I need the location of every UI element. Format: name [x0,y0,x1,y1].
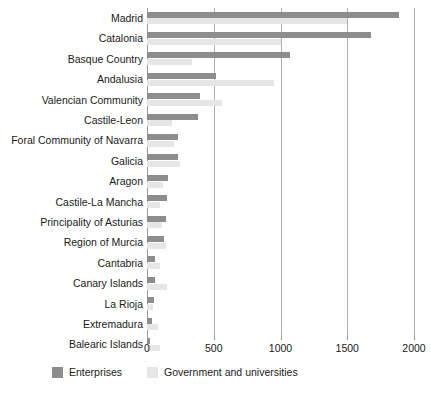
bar-enterprises [147,195,167,201]
horizontal-bar-chart: MadridCataloniaBasque CountryAndalusiaVa… [0,0,431,396]
bar-row [147,171,414,191]
category-label: Madrid [0,8,143,28]
bar-row [147,192,414,212]
bar-government-universities [147,222,162,228]
bar-government-universities [147,304,153,310]
category-label: La Rioja [0,294,143,314]
bar-row [147,90,414,110]
bar-government-universities [147,161,180,167]
x-tick-label: 2000 [402,341,425,355]
category-label: Castile-La Mancha [0,192,143,212]
bar-government-universities [147,243,166,249]
bar-row [147,69,414,89]
bar-enterprises [147,277,155,283]
category-label: Valencian Community [0,90,143,110]
bar-enterprises [147,216,166,222]
bar-government-universities [147,120,172,126]
category-label: Cantabria [0,253,143,273]
bar-government-universities [147,59,192,65]
tick-mark [347,335,348,340]
legend-label: Enterprises [69,366,122,379]
bar-enterprises [147,12,399,18]
category-label: Canary Islands [0,273,143,293]
legend-item[interactable]: Enterprises [52,365,122,379]
category-label: Region of Murcia [0,232,143,252]
bar-row [147,294,414,314]
bar-enterprises [147,236,164,242]
bar-enterprises [147,32,371,38]
category-label: Foral Community of Navarra [0,130,143,150]
bar-row [147,151,414,171]
bar-enterprises [147,52,290,58]
tick-mark [414,335,415,340]
legend-item[interactable]: Government and universities [147,365,298,379]
bar-row [147,314,414,334]
category-label: Castile-Leon [0,110,143,130]
bar-enterprises [147,256,155,262]
bar-row [147,130,414,150]
bar-enterprises [147,175,168,181]
legend-label: Government and universities [164,366,298,379]
bar-enterprises [147,93,200,99]
bar-enterprises [147,73,216,79]
category-label: Extremadura [0,314,143,334]
category-axis-labels: MadridCataloniaBasque CountryAndalusiaVa… [0,8,143,335]
bar-row [147,8,414,28]
bar-government-universities [147,141,174,147]
bar-enterprises [147,318,152,324]
x-tick-label: 0 [144,341,150,355]
tick-mark [147,335,148,340]
chart-legend: EnterprisesGovernment and universities [0,365,431,381]
bar-government-universities [147,263,160,269]
category-label: Aragon [0,171,143,191]
bar-enterprises [147,297,154,303]
x-axis-tick-labels: 0500100015002000 [0,341,431,357]
bar-row [147,110,414,130]
bar-enterprises [147,154,178,160]
x-tick-label: 1500 [336,341,359,355]
bar-row [147,253,414,273]
bar-government-universities [147,100,222,106]
bar-government-universities [147,18,347,24]
bar-government-universities [147,80,274,86]
category-label: Basque Country [0,49,143,69]
category-label: Catalonia [0,28,143,48]
category-label: Principality of Asturias [0,212,143,232]
bar-government-universities [147,182,163,188]
bar-row [147,28,414,48]
category-label: Galicia [0,151,143,171]
x-tick-label: 1000 [269,341,292,355]
tick-mark [281,335,282,340]
bar-government-universities [147,202,160,208]
bar-government-universities [147,39,281,45]
plot-area [147,8,414,335]
category-label: Andalusia [0,69,143,89]
bar-enterprises [147,114,198,120]
bar-row [147,49,414,69]
bar-government-universities [147,284,167,290]
tick-mark [214,335,215,340]
legend-swatch-icon [52,367,63,378]
legend-swatch-icon [147,367,158,378]
bar-row [147,273,414,293]
gridline-2000 [414,8,415,335]
bar-enterprises [147,134,178,140]
x-tick-label: 500 [205,341,223,355]
bar-government-universities [147,324,158,330]
bar-row [147,212,414,232]
bar-rows [147,8,414,335]
bar-row [147,232,414,252]
